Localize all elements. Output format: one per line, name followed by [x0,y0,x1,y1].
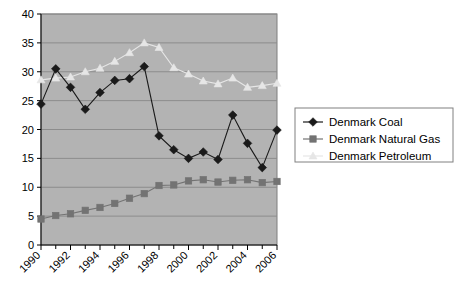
data-point-marker [244,177,250,183]
data-point-marker [310,136,316,142]
line-chart: 0510152025303540 19901992199419961998200… [0,0,459,302]
data-point-marker [259,179,265,185]
data-point-marker [274,178,280,184]
y-axis-tick-label: 40 [22,8,34,20]
data-point-marker [171,182,177,188]
data-point-marker [67,211,73,217]
y-axis-tick-label: 30 [22,66,34,78]
data-point-marker [215,179,221,185]
y-axis-tick-label: 15 [22,152,34,164]
data-point-marker [156,182,162,188]
data-point-marker [82,207,88,213]
data-point-marker [126,195,132,201]
data-point-marker [141,190,147,196]
y-axis-tick-label: 5 [28,210,34,222]
data-point-marker [185,178,191,184]
data-point-marker [38,216,44,222]
data-point-marker [97,204,103,210]
data-point-marker [200,177,206,183]
legend-item-label: Denmark Coal [329,116,403,128]
chart-container: 0510152025303540 19901992199419961998200… [0,0,459,302]
data-point-marker [230,177,236,183]
y-axis-tick-label: 10 [22,181,34,193]
y-axis-tick-label: 20 [22,124,34,136]
y-axis-tick-label: 35 [22,37,34,49]
y-axis-tick-label: 25 [22,95,34,107]
data-point-marker [112,200,118,206]
data-point-marker [53,212,59,218]
legend-item-label: Denmark Petroleum [329,150,431,162]
legend-item-label: Denmark Natural Gas [329,133,440,145]
